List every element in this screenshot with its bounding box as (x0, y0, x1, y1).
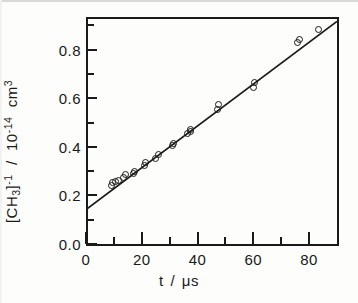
data-point-marker (215, 101, 222, 108)
x-tick-label: 60 (244, 251, 262, 268)
y-tick-label: 0.4 (59, 138, 81, 155)
y-tick-label: 0.2 (59, 187, 81, 204)
data-point-marker (170, 140, 177, 147)
x-axis-title: t / μs (0, 272, 358, 289)
figure-panel: 0.00.20.40.60.8 020406080 [CH3]-1 / 10-1… (0, 0, 358, 303)
data-point-marker (131, 168, 138, 175)
x-tick-label: 40 (189, 251, 207, 268)
plot-area: 0.00.20.40.60.8 020406080 (86, 17, 339, 246)
scan-edge-left (0, 0, 2, 303)
y-tick-label: 0.8 (59, 41, 81, 58)
data-point-marker (155, 151, 162, 158)
scan-edge-top (0, 0, 358, 2)
y-axis-title: [CH3]-1 / 10-14 cm3 (2, 80, 22, 223)
y-tick-label: 0.6 (59, 90, 81, 107)
x-tick-label: 80 (300, 251, 318, 268)
data-point-marker (315, 26, 322, 33)
y-axis-title-container: [CH3]-1 / 10-14 cm3 (0, 0, 32, 303)
x-tick-label: 0 (82, 251, 91, 268)
x-tick-label: 20 (133, 251, 151, 268)
data-point-marker (142, 159, 149, 166)
y-tick-label: 0.0 (59, 236, 81, 253)
data-point-marker (296, 36, 303, 43)
data-point-marker (251, 79, 258, 86)
data-point-series (86, 17, 339, 246)
data-point-marker (122, 171, 129, 178)
